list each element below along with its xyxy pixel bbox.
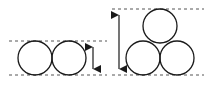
left-circle-2 (52, 41, 86, 75)
two-circle-row-group (9, 41, 107, 75)
right-circle-3 (160, 41, 194, 75)
left-circle-1 (18, 41, 52, 75)
circle-packing-diagram (0, 0, 216, 88)
right-circle-1 (143, 9, 177, 43)
right-circle-2 (126, 41, 160, 75)
three-circle-stack-group (112, 9, 204, 75)
